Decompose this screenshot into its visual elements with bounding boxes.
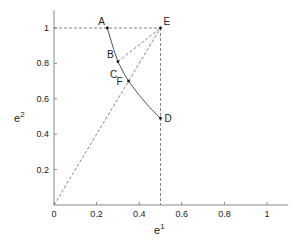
y-tick-label: 0.8 [36,58,49,68]
dashed-line [118,28,161,62]
y-tick-label: 0.2 [36,165,49,175]
y-tick-label: 0.4 [36,129,49,139]
point-D-marker [159,117,162,120]
axes: 00.20.40.60.810.20.40.60.81 [36,10,288,219]
point-A-marker [106,27,109,30]
x-axis-label: e1 [154,222,165,236]
point-F-marker [127,80,130,83]
x-tick-label: 0.2 [90,209,103,219]
point-F-label: F [117,76,123,87]
point-A-label: A [98,16,105,27]
y-tick-label: 0.6 [36,94,49,104]
x-tick-label: 0.6 [176,209,189,219]
x-tick-label: 1 [264,209,269,219]
point-E-marker [159,27,162,30]
x-tick-label: 0 [51,209,56,219]
point-E-label: E [164,16,171,27]
y-tick-label: 1 [44,23,49,33]
y-axis-label: e2 [14,110,25,124]
point-B-marker [117,60,120,63]
point-D-label: D [165,113,172,124]
x-tick-label: 0.4 [133,209,146,219]
point-B-label: B [107,49,114,60]
diagram: 00.20.40.60.810.20.40.60.81 AEBCFD e1 e2 [0,0,303,241]
x-tick-label: 0.8 [218,209,231,219]
